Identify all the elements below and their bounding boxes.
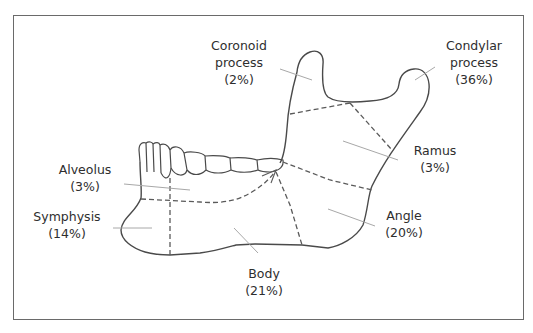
label-body-percent: (21%) — [236, 282, 292, 299]
label-body: Body (21%) — [236, 265, 292, 299]
label-coronoid-name1: Coronoid — [199, 37, 279, 54]
label-coronoid-process: Coronoid process (2%) — [199, 37, 279, 88]
label-symphysis-percent: (14%) — [24, 225, 110, 242]
teeth — [139, 142, 283, 178]
leader-body — [234, 228, 258, 253]
label-angle-name: Angle — [376, 207, 432, 224]
label-condylar-process: Condylar process (36%) — [433, 37, 515, 88]
label-condylar-name1: Condylar — [433, 37, 515, 54]
label-alveolus: Alveolus (3%) — [45, 161, 125, 195]
label-symphysis-name: Symphysis — [24, 208, 110, 225]
label-body-name: Body — [236, 265, 292, 282]
label-angle: Angle (20%) — [376, 207, 432, 241]
label-alveolus-name: Alveolus — [45, 161, 125, 178]
leader-alveolus — [124, 184, 190, 190]
region-boundaries — [141, 103, 392, 255]
label-ramus-percent: (3%) — [400, 159, 470, 176]
label-ramus-name: Ramus — [400, 142, 470, 159]
leader-ramus — [343, 141, 398, 160]
label-condylar-percent: (36%) — [433, 71, 515, 88]
label-coronoid-percent: (2%) — [199, 71, 279, 88]
label-symphysis: Symphysis (14%) — [24, 208, 110, 242]
label-angle-percent: (20%) — [376, 224, 432, 241]
label-condylar-name2: process — [433, 54, 515, 71]
label-coronoid-name2: process — [199, 54, 279, 71]
leader-angle — [328, 209, 375, 226]
label-ramus: Ramus (3%) — [400, 142, 470, 176]
label-alveolus-percent: (3%) — [45, 178, 125, 195]
